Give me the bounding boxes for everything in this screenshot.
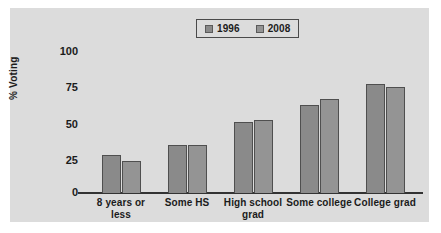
bar-2008-high-school-grad[interactable] [254,120,273,194]
chart-panel: 1996 2008 % Voting 100 75 50 25 0 [10,8,429,222]
y-axis-ticks: 100 75 50 25 0 [30,8,78,222]
y-tick-75: 75 [38,82,78,93]
x-label-some-hs: Some HS [154,197,220,209]
x-label-line-1: High school [220,197,286,209]
bar-group-college-grad [352,46,418,193]
y-tick-25: 25 [38,155,78,166]
y-tick-0: 0 [38,187,78,198]
x-label-line-1: 8 years or [88,197,154,209]
legend-entry-2008[interactable]: 2008 [256,24,291,34]
x-label-line-2: grad [220,209,286,221]
legend-label-2008: 2008 [268,24,291,34]
bar-group-8-years-or-less [88,46,154,193]
bar-2008-8-years-or-less[interactable] [122,161,141,193]
bar-2008-college-grad[interactable] [386,87,405,193]
x-label-line-1: Some HS [154,197,220,209]
bar-1996-some-college[interactable] [300,105,319,193]
legend-swatch-2008-icon [256,25,264,33]
bar-2008-some-college[interactable] [320,99,339,193]
bar-1996-some-hs[interactable] [168,145,187,194]
x-label-line-2: less [88,209,154,221]
y-tick-100: 100 [38,46,78,57]
chart-figure: 1996 2008 % Voting 100 75 50 25 0 [0,0,441,233]
x-label-8-years-or-less: 8 years or less [88,197,154,221]
bar-1996-college-grad[interactable] [366,84,385,193]
x-label-some-college: Some college [286,197,352,209]
legend-swatch-1996-icon [205,25,213,33]
bar-group-high-school-grad [220,46,286,193]
legend-label-1996: 1996 [217,24,240,34]
y-tick-50: 50 [38,119,78,130]
chart-legend: 1996 2008 [196,19,299,38]
bar-1996-high-school-grad[interactable] [234,122,253,193]
bar-group-some-hs [154,46,220,193]
plot-area [88,46,418,193]
x-label-line-1: College grad [352,197,418,209]
bar-group-some-college [286,46,352,193]
bar-1996-8-years-or-less[interactable] [102,155,121,193]
x-label-line-1: Some college [286,197,352,209]
legend-entry-1996[interactable]: 1996 [205,24,240,34]
x-label-high-school-grad: High school grad [220,197,286,221]
x-label-college-grad: College grad [352,197,418,209]
bar-2008-some-hs[interactable] [188,145,207,194]
y-axis-label: % Voting [8,56,19,100]
